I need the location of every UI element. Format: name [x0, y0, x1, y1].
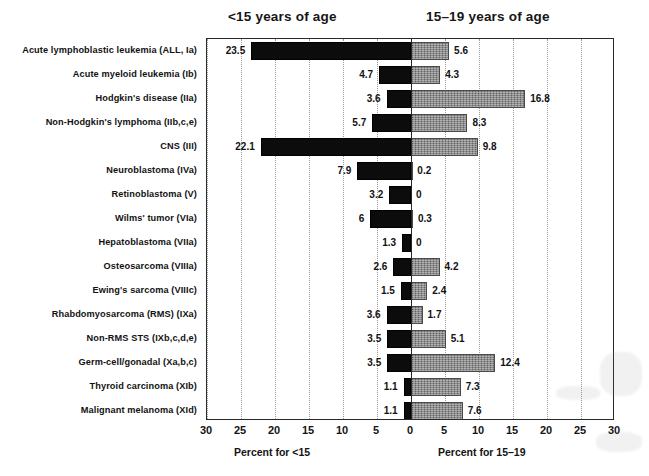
- bar-15-to-19: [411, 378, 461, 396]
- bar-under-15: [387, 354, 411, 372]
- bar-under-15: [393, 258, 411, 276]
- bar-under-15: [389, 186, 411, 204]
- bar-15-to-19: [411, 258, 440, 276]
- bar-15-to-19: [411, 66, 440, 84]
- chart-figure: <15 years of age 15–19 years of age Acut…: [0, 0, 649, 476]
- chart-row: 3.61.7: [207, 303, 613, 327]
- x-axis-tick-label: 25: [565, 424, 595, 436]
- bar-under-15: [387, 90, 411, 108]
- bar-value-15-to-19: 0: [416, 231, 422, 255]
- x-axis-tick-label: 0: [395, 424, 425, 436]
- bar-value-15-to-19: 7.6: [468, 399, 482, 420]
- category-label: Non-Hodgkin's lymphoma (IIb,c,e): [46, 110, 197, 134]
- chart-row: 23.55.6: [207, 39, 613, 63]
- chart-row: 7.90.2: [207, 159, 613, 183]
- bar-value-under-15: 3.5: [367, 351, 381, 375]
- chart-row: 3.512.4: [207, 351, 613, 375]
- category-label: Wilms' tumor (VIa): [115, 206, 197, 230]
- bar-under-15: [370, 210, 411, 228]
- bar-value-15-to-19: 16.8: [530, 87, 549, 111]
- category-label: Retinoblastoma (V): [111, 182, 197, 206]
- bar-under-15: [379, 66, 411, 84]
- x-axis-tick-label: 10: [463, 424, 493, 436]
- bar-value-15-to-19: 2.4: [432, 279, 446, 303]
- bar-value-15-to-19: 9.8: [483, 135, 497, 159]
- bar-value-15-to-19: 7.3: [466, 375, 480, 399]
- bar-under-15: [251, 42, 411, 60]
- x-axis-title-right: Percent for 15–19: [438, 446, 526, 458]
- category-label: Non-RMS STS (IXb,c,d,e): [86, 326, 197, 350]
- bar-value-under-15: 5.7: [352, 111, 366, 135]
- category-label: Hepatoblastoma (VIIa): [98, 230, 197, 254]
- bar-15-to-19: [411, 90, 525, 108]
- bar-15-to-19: [411, 330, 446, 348]
- x-axis-tick-label: 25: [225, 424, 255, 436]
- x-axis-tick-label: 30: [599, 424, 629, 436]
- bar-15-to-19: [411, 282, 427, 300]
- chart-row: 1.30: [207, 231, 613, 255]
- bar-15-to-19: [411, 114, 467, 132]
- bar-value-under-15: 7.9: [337, 159, 351, 183]
- chart-row: 3.20: [207, 183, 613, 207]
- bar-value-under-15: 6: [359, 207, 365, 231]
- bar-under-15: [404, 402, 411, 420]
- bar-value-15-to-19: 8.3: [472, 111, 486, 135]
- bar-value-15-to-19: 5.1: [451, 327, 465, 351]
- bar-15-to-19: [411, 402, 463, 420]
- bar-under-15: [372, 114, 411, 132]
- x-axis-tick-label: 20: [259, 424, 289, 436]
- chart-row: 5.78.3: [207, 111, 613, 135]
- chart-row: 1.17.3: [207, 375, 613, 399]
- bar-under-15: [401, 282, 411, 300]
- header-right-group-title: 15–19 years of age: [426, 9, 550, 24]
- category-label-column: Acute lymphoblastic leukemia (ALL, Ia)Ac…: [0, 38, 202, 420]
- bar-value-15-to-19: 0.2: [417, 159, 431, 183]
- category-label: Acute lymphoblastic leukemia (ALL, Ia): [22, 38, 197, 62]
- bar-under-15: [261, 138, 411, 156]
- bar-value-under-15: 2.6: [373, 255, 387, 279]
- x-axis-tick-label: 30: [191, 424, 221, 436]
- chart-row: 22.19.8: [207, 135, 613, 159]
- category-label: Germ-cell/gonadal (Xa,b,c): [79, 350, 198, 374]
- bar-15-to-19: [411, 354, 495, 372]
- x-axis: Percent for <15 Percent for 15–19 302520…: [206, 420, 614, 476]
- bar-value-under-15: 4.7: [359, 63, 373, 87]
- bar-value-under-15: 1.3: [382, 231, 396, 255]
- bar-value-under-15: 1.1: [384, 399, 398, 420]
- category-label: Hodgkin's disease (IIa): [96, 86, 198, 110]
- chart-row: 1.52.4: [207, 279, 613, 303]
- category-label: Malignant melanoma (XId): [81, 398, 197, 422]
- plot-area: 23.55.64.74.33.616.85.78.322.19.87.90.23…: [206, 38, 614, 420]
- bar-value-under-15: 3.5: [367, 327, 381, 351]
- chart-row: 2.64.2: [207, 255, 613, 279]
- x-axis-title-left: Percent for <15: [234, 446, 310, 458]
- zero-axis-line: [411, 39, 412, 419]
- bar-15-to-19: [411, 306, 423, 324]
- bar-value-15-to-19: 0.3: [418, 207, 432, 231]
- category-label: Neuroblastoma (IVa): [106, 158, 197, 182]
- bar-15-to-19: [411, 138, 478, 156]
- bar-value-under-15: 3.2: [369, 183, 383, 207]
- chart-row: 60.3: [207, 207, 613, 231]
- bar-under-15: [404, 378, 411, 396]
- x-axis-tick-label: 20: [531, 424, 561, 436]
- bar-value-under-15: 1.1: [384, 375, 398, 399]
- chart-row: 4.74.3: [207, 63, 613, 87]
- category-label: Acute myeloid leukemia (Ib): [73, 62, 197, 86]
- category-label: CNS (III): [160, 134, 197, 158]
- category-label: Osteosarcoma (VIIIa): [104, 254, 197, 278]
- chart-row: 1.17.6: [207, 399, 613, 420]
- bar-value-15-to-19: 5.6: [454, 39, 468, 63]
- chart-row: 3.616.8: [207, 87, 613, 111]
- bar-under-15: [387, 330, 411, 348]
- chart-row: 3.55.1: [207, 327, 613, 351]
- bar-value-15-to-19: 4.3: [445, 63, 459, 87]
- bar-value-15-to-19: 1.7: [428, 303, 442, 327]
- x-axis-tick-label: 15: [497, 424, 527, 436]
- bar-value-15-to-19: 4.2: [445, 255, 459, 279]
- x-axis-tick-label: 10: [327, 424, 357, 436]
- category-label: Thyroid carcinoma (XIb): [90, 374, 197, 398]
- category-label: Ewing's sarcoma (VIIIc): [92, 278, 197, 302]
- bar-value-under-15: 3.6: [367, 87, 381, 111]
- bar-15-to-19: [411, 42, 449, 60]
